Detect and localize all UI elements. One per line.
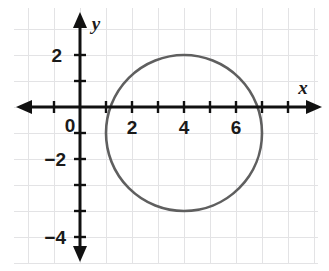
x-tick-label-2: 2 bbox=[127, 117, 138, 138]
x-axis bbox=[16, 100, 322, 114]
origin-label: 0 bbox=[65, 115, 76, 136]
graph-figure: 2 −2 −4 0 2 4 6 x y bbox=[0, 0, 329, 271]
y-tick-label-neg2: −2 bbox=[44, 149, 66, 170]
y-tick-label-2: 2 bbox=[51, 45, 62, 66]
x-tick-label-4: 4 bbox=[179, 117, 190, 138]
y-tick-label-neg4: −4 bbox=[44, 227, 66, 248]
x-axis-label: x bbox=[297, 77, 308, 98]
y-axis-label: y bbox=[90, 13, 101, 34]
y-axis bbox=[73, 12, 87, 262]
coordinate-plane-svg: 2 −2 −4 0 2 4 6 x y bbox=[0, 0, 329, 271]
x-tick-label-6: 6 bbox=[231, 117, 242, 138]
